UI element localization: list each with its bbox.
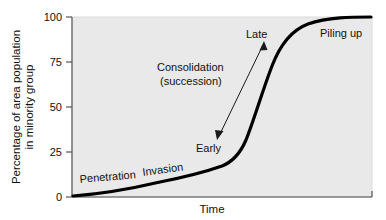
y-tick-label-0: 0 [56,191,62,203]
y-tick-label-25: 25 [50,146,62,158]
chart-figure: 100 75 50 25 0 Percentage of area popula… [0,0,386,220]
annotation-late: Late [246,28,267,40]
y-axis-title-line1: Percentage of area population [10,30,22,184]
y-tick-label-75: 75 [50,56,62,68]
y-axis-title-line2: in minority group [23,64,35,149]
annotation-early: Early [196,142,222,154]
x-axis-title: Time [199,203,224,215]
annotation-consolidation-line1: Consolidation [157,61,224,73]
y-tick-label-50: 50 [50,101,62,113]
y-tick-label-100: 100 [44,11,62,23]
annotation-piling-up: Piling up [320,27,362,39]
annotation-consolidation-line2: (succession) [160,75,222,87]
